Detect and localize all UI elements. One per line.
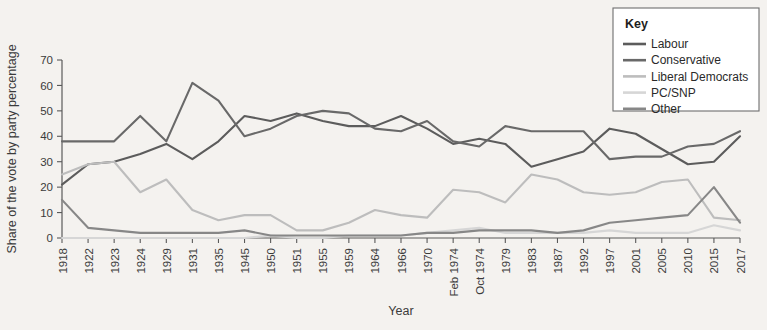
x-tick-label: Oct 1974 <box>474 247 486 294</box>
x-tick-label: 1964 <box>369 247 381 273</box>
x-tick-label: 1951 <box>291 248 303 274</box>
legend: KeyLabourConservativeLiberal DemocratsPC… <box>613 8 759 116</box>
series-line-other <box>62 187 740 235</box>
x-tick-label: 1935 <box>213 248 225 274</box>
line-chart: 0102030405060701918192219231924192919311… <box>0 0 767 330</box>
x-tick-label: 1997 <box>604 248 616 274</box>
x-tick-label: 1922 <box>83 248 95 274</box>
x-tick-label: 1950 <box>265 248 277 274</box>
chart-container: 0102030405060701918192219231924192919311… <box>0 0 767 330</box>
x-tick-label: 1987 <box>552 248 564 274</box>
x-tick-label: 1992 <box>578 248 590 274</box>
y-tick-label: 0 <box>47 232 53 244</box>
series-line-labour <box>62 113 740 184</box>
x-tick-label: 1931 <box>187 248 199 274</box>
legend-label-other: Other <box>651 102 681 116</box>
x-tick-label: 1970 <box>422 248 434 274</box>
y-tick-label: 70 <box>40 54 53 66</box>
x-tick-label: 1959 <box>343 248 355 274</box>
x-tick-label: 2015 <box>708 248 720 274</box>
y-axis-title: Share of the vote by party percentage <box>5 44 19 253</box>
y-tick-label: 10 <box>40 207 53 219</box>
y-tick-label: 20 <box>40 181 53 193</box>
x-tick-label: 2005 <box>656 248 668 274</box>
legend-label-labour: Labour <box>651 37 688 51</box>
x-tick-label: 1979 <box>500 248 512 274</box>
x-tick-label: 1924 <box>135 247 147 273</box>
x-tick-label: 1955 <box>317 248 329 274</box>
x-tick-label: 2017 <box>735 248 747 274</box>
y-tick-label: 40 <box>40 130 53 142</box>
x-tick-label: 1923 <box>109 248 121 274</box>
x-tick-label: 1918 <box>57 248 69 274</box>
legend-label-conservative: Conservative <box>651 53 721 67</box>
legend-label-liberal-democrats: Liberal Democrats <box>651 70 748 84</box>
legend-title: Key <box>625 17 648 31</box>
legend-label-pc-snp: PC/SNP <box>651 86 696 100</box>
y-tick-label: 60 <box>40 80 53 92</box>
x-tick-label: 1983 <box>526 248 538 274</box>
x-tick-label: 2001 <box>630 248 642 274</box>
x-axis-title: Year <box>388 304 413 318</box>
plot-area: 0102030405060701918192219231924192919311… <box>5 8 759 318</box>
x-tick-label: 2010 <box>682 248 694 274</box>
x-tick-label: 1966 <box>396 248 408 274</box>
y-tick-label: 50 <box>40 105 53 117</box>
x-tick-label: Feb 1974 <box>448 247 460 296</box>
y-tick-label: 30 <box>40 156 53 168</box>
x-tick-label: 1945 <box>239 248 251 274</box>
x-tick-label: 1929 <box>161 248 173 274</box>
